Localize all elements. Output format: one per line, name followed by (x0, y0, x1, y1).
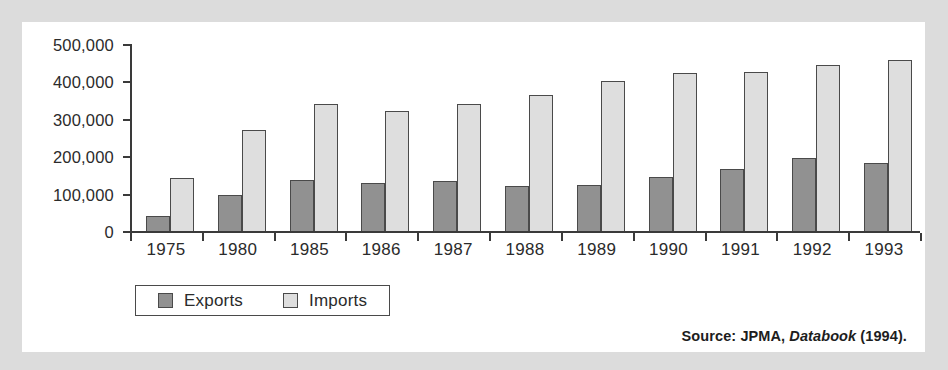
y-axis-tick-label: 100,000 (53, 185, 114, 204)
x-axis-tick (920, 233, 922, 241)
legend-swatch-imports (283, 293, 298, 308)
x-axis-tick-label: 1986 (345, 240, 417, 260)
bar-group (792, 44, 840, 231)
bar-imports (601, 81, 625, 231)
y-axis-tick-label: 400,000 (53, 73, 114, 92)
bar-exports (433, 181, 457, 231)
x-axis-tick-label: 1980 (202, 240, 274, 260)
bar-exports (864, 163, 888, 231)
bar-group (433, 44, 481, 231)
bar-group (505, 44, 553, 231)
bar-imports (673, 73, 697, 231)
bar-imports (170, 178, 194, 231)
bar-imports (888, 60, 912, 231)
bar-group (290, 44, 338, 231)
legend-item-imports[interactable]: Imports (283, 291, 367, 311)
y-axis-tick: 400,000 (123, 81, 130, 83)
bar-exports (146, 216, 170, 231)
source-title: Databook (789, 328, 856, 344)
plot-area: 0100,000200,000300,000400,000500,000 (130, 44, 920, 233)
bar-imports (744, 72, 768, 231)
bar-group (720, 44, 768, 231)
bar-exports (361, 183, 385, 231)
bar-group (649, 44, 697, 231)
bar-group (218, 44, 266, 231)
chart-legend: ExportsImports (135, 285, 390, 316)
bar-exports (218, 195, 242, 231)
y-axis-tick: 100,000 (123, 194, 130, 196)
legend-swatch-exports (158, 293, 173, 308)
bar-exports (505, 186, 529, 231)
y-axis-tick: 300,000 (123, 119, 130, 121)
x-axis-tick-label: 1989 (561, 240, 633, 260)
legend-item-exports[interactable]: Exports (158, 291, 243, 311)
bar-imports (314, 104, 338, 231)
bar-exports (577, 185, 601, 231)
y-axis-tick-label: 500,000 (53, 36, 114, 55)
bar-group (577, 44, 625, 231)
legend-label: Exports (184, 291, 243, 311)
x-axis-tick-label: 1975 (130, 240, 202, 260)
y-axis-tick: 500,000 (123, 44, 130, 46)
y-axis-tick: 0 (123, 231, 130, 233)
source-suffix: (1994). (856, 328, 907, 344)
y-axis-tick-label: 200,000 (53, 148, 114, 167)
bar-exports (792, 158, 816, 231)
legend-label: Imports (309, 291, 367, 311)
x-axis-tick-label: 1992 (776, 240, 848, 260)
y-axis-tick-label: 300,000 (53, 110, 114, 129)
y-axis-tick-label: 0 (105, 223, 114, 242)
bar-imports (816, 65, 840, 231)
bar-imports (242, 130, 266, 231)
bar-exports (290, 180, 314, 231)
bar-imports (385, 111, 409, 231)
x-axis-tick-label: 1991 (705, 240, 777, 260)
source-prefix: Source: JPMA, (682, 328, 790, 344)
bar-group (146, 44, 194, 231)
bar-exports (649, 177, 673, 231)
bar-imports (529, 95, 553, 232)
bar-exports (720, 169, 744, 231)
source-note: Source: JPMA, Databook (1994). (682, 328, 907, 344)
y-axis-tick: 200,000 (123, 156, 130, 158)
x-axis-tick-label: 1993 (848, 240, 920, 260)
x-axis-tick-label: 1985 (274, 240, 346, 260)
y-axis-line (130, 44, 132, 233)
x-axis-line (130, 231, 920, 233)
bar-group (361, 44, 409, 231)
x-axis-tick-label: 1990 (633, 240, 705, 260)
bar-imports (457, 104, 481, 231)
bar-group (864, 44, 912, 231)
x-axis-tick-label: 1987 (417, 240, 489, 260)
chart-figure: 0100,000200,000300,000400,000500,000 197… (22, 22, 925, 352)
x-axis-tick-label: 1988 (489, 240, 561, 260)
